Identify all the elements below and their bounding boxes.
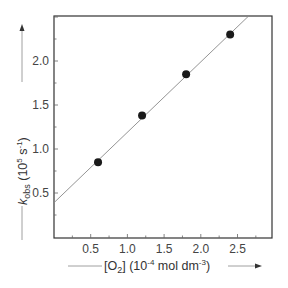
data-point <box>138 112 146 120</box>
data-point <box>182 70 190 78</box>
regression-line <box>54 16 249 203</box>
x-tick-label: 2.0 <box>192 242 209 256</box>
x-tick-label: 2.5 <box>229 242 246 256</box>
data-point <box>94 158 102 166</box>
fit-line <box>54 16 249 203</box>
data-points <box>94 31 234 167</box>
plot-frame <box>54 16 272 238</box>
y-tick-label: 1.0 <box>32 142 49 156</box>
y-axis-arrow-icon <box>20 24 25 31</box>
x-tick-label: 0.5 <box>82 242 99 256</box>
x-axis-label: [O2] (10-4 mol dm-3) <box>104 258 210 275</box>
y-tick-label: 2.0 <box>32 54 49 68</box>
y-tick-label: 1.5 <box>32 98 49 112</box>
data-point <box>226 31 234 39</box>
chart-canvas: 0.51.01.52.02.50.51.01.52.0 [O2] (10-4 m… <box>0 0 288 288</box>
y-axis-label: kobs (105 s-1) <box>15 137 32 205</box>
x-tick-label: 1.0 <box>119 242 136 256</box>
x-axis-title: [O2] (10-4 mol dm-3) <box>68 258 262 275</box>
axis-ticks: 0.51.01.52.02.50.51.01.52.0 <box>32 17 256 256</box>
plot-border <box>54 16 272 238</box>
x-tick-label: 1.5 <box>156 242 173 256</box>
y-tick-label: 0.5 <box>32 186 49 200</box>
y-axis-title: kobs (105 s-1) <box>15 24 32 240</box>
x-axis-arrow-icon <box>255 264 262 269</box>
